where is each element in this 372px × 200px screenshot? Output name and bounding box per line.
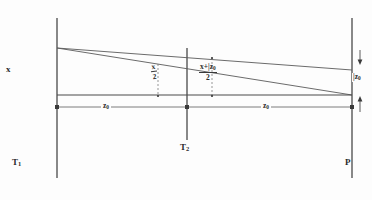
ray-diagram-figure: x T1 T2 P z0 z0 |z0 x 2 x+|z0 2 <box>0 0 372 200</box>
fraction-half-x-numerator: x <box>150 63 157 71</box>
arrow-head-down-icon <box>358 60 363 66</box>
dimension-dot-half-x <box>157 95 159 97</box>
label-zo-right: z0 <box>261 102 271 111</box>
dimension-dot-sum-bottom <box>211 95 213 97</box>
diagram-canvas <box>0 0 372 200</box>
fraction-sum-half-numerator-subscript: 0 <box>213 65 216 71</box>
label-zo-right-subscript: 0 <box>266 104 269 110</box>
label-p: P <box>345 158 351 167</box>
label-x-aperture: x <box>6 65 11 74</box>
label-zo-left: z0 <box>101 102 111 111</box>
label-zo-left-subscript: 0 <box>106 104 109 110</box>
fraction-sum-half-numerator: x+|z0 <box>199 63 217 72</box>
fraction-sum-half-numerator-text: x+|z <box>200 62 213 71</box>
label-t2: T2 <box>180 143 189 153</box>
label-t1: T1 <box>12 158 21 168</box>
label-t2-subscript: 2 <box>186 145 189 152</box>
fraction-sum-half: x+|z0 2 <box>199 63 217 81</box>
arrow-head-up-icon <box>358 96 363 102</box>
dimension-tick-right <box>350 105 354 109</box>
dimension-tick-left <box>55 105 59 109</box>
fraction-sum-half-denominator: 2 <box>199 74 217 82</box>
label-t1-subscript: 1 <box>18 160 21 167</box>
label-zo-vertical-subscript: 0 <box>358 75 361 81</box>
fraction-half-x-denominator: 2 <box>151 72 158 80</box>
dimension-dot-sum-top <box>211 57 213 59</box>
label-zo-vertical: |z0 <box>352 73 362 82</box>
dimension-tick-center <box>185 105 189 109</box>
